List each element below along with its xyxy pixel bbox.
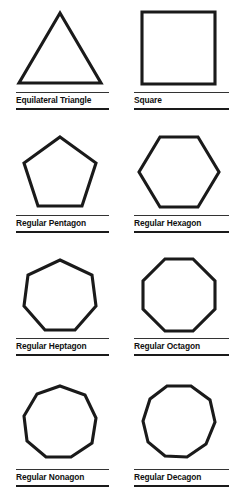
figure-label: Regular Pentagon <box>16 216 109 231</box>
figure-cell-triangle: Equilateral Triangle <box>0 0 119 124</box>
figure-label: Regular Decagon <box>134 470 229 485</box>
rule-bottom <box>134 231 229 233</box>
figure-cell-heptagon: Regular Heptagon <box>0 247 119 370</box>
heptagon-shape <box>22 258 98 332</box>
figure-cell-octagon: Regular Octagon <box>119 247 238 370</box>
label-block-heptagon: Regular Heptagon <box>16 338 109 364</box>
figure-label: Regular Hexagon <box>134 216 229 231</box>
pentagon-shape <box>22 135 98 209</box>
rule-bottom <box>16 354 109 356</box>
nonagon-shape <box>22 384 98 460</box>
square-shape-area <box>119 0 238 96</box>
rule-bottom <box>134 354 229 356</box>
rule-bottom <box>134 485 229 487</box>
heptagon-shape-area <box>0 247 119 342</box>
label-block-pentagon: Regular Pentagon <box>16 215 109 241</box>
figure-cell-hexagon: Regular Hexagon <box>119 124 238 247</box>
square-shape <box>140 10 217 86</box>
triangle-shape <box>17 11 103 85</box>
figure-label: Regular Octagon <box>134 339 229 354</box>
label-block-hexagon: Regular Hexagon <box>134 215 229 241</box>
label-block-decagon: Regular Decagon <box>134 469 229 495</box>
figure-label: Regular Nonagon <box>16 470 109 485</box>
label-block-square: Square <box>134 92 229 118</box>
rule-bottom <box>134 108 229 110</box>
decagon-shape <box>141 384 217 459</box>
figure-cell-decagon: Regular Decagon <box>119 370 238 501</box>
label-block-triangle: Equilateral Triangle <box>16 92 109 118</box>
rule-bottom <box>16 108 109 110</box>
figure-cell-nonagon: Regular Nonagon <box>0 370 119 501</box>
figure-label: Square <box>134 93 229 108</box>
octagon-shape <box>141 257 217 333</box>
nonagon-shape-area <box>0 370 119 473</box>
hexagon-shape <box>137 135 221 209</box>
triangle-shape-area <box>0 0 119 96</box>
pentagon-shape-area <box>0 124 119 219</box>
figure-label: Regular Heptagon <box>16 339 109 354</box>
polygon-grid: Equilateral Triangle Square Regular Pent… <box>0 0 238 501</box>
figure-label: Equilateral Triangle <box>16 93 109 108</box>
figure-cell-square: Square <box>119 0 238 124</box>
label-block-nonagon: Regular Nonagon <box>16 469 109 495</box>
rule-bottom <box>16 231 109 233</box>
hexagon-shape-area <box>119 124 238 219</box>
octagon-shape-area <box>119 247 238 342</box>
decagon-shape-area <box>119 370 238 473</box>
label-block-octagon: Regular Octagon <box>134 338 229 364</box>
figure-cell-pentagon: Regular Pentagon <box>0 124 119 247</box>
rule-bottom <box>16 485 109 487</box>
